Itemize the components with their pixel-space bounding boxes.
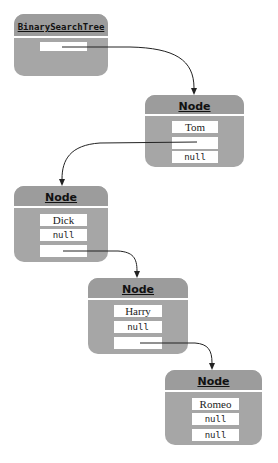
data-field: Romeo: [192, 398, 239, 410]
right-field: null: [172, 151, 218, 163]
data-field: Dick: [40, 214, 87, 226]
arrowhead-icon: [59, 179, 65, 186]
data-field: Tom: [172, 121, 218, 133]
node-object-harry: Node Harry null: [88, 278, 188, 354]
left-field: null: [40, 229, 87, 241]
left-field: null: [114, 321, 162, 333]
class-name-label: Node: [45, 191, 77, 204]
node-object-dick: Node Dick null: [14, 186, 108, 262]
object-header: Node: [145, 95, 244, 116]
object-header: Node: [14, 186, 108, 208]
node-object-romeo: Node Romeo null null: [165, 370, 262, 445]
arrowhead-icon: [134, 271, 140, 278]
right-field: [114, 337, 162, 349]
left-field: [172, 137, 218, 149]
arrowhead-icon: [191, 88, 197, 95]
class-name-label: Node: [122, 283, 154, 296]
right-field: [40, 245, 87, 257]
node-object-tom: Node Tom null: [145, 95, 244, 167]
data-field: Harry: [114, 305, 162, 317]
object-header: BinarySearchTree: [14, 14, 108, 38]
left-field: null: [192, 413, 239, 425]
arrowhead-icon: [209, 363, 215, 370]
class-name-label: BinarySearchTree: [18, 22, 105, 32]
right-field: null: [192, 429, 239, 441]
binary-search-tree-object: BinarySearchTree: [14, 14, 108, 76]
object-header: Node: [165, 370, 262, 392]
object-header: Node: [88, 278, 188, 300]
class-name-label: Node: [178, 100, 210, 113]
root-field: [40, 42, 87, 51]
class-name-label: Node: [197, 375, 229, 388]
